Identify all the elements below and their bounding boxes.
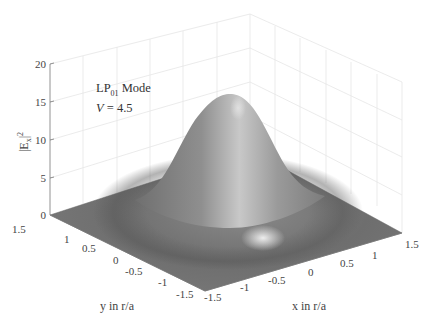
- svg-text:0: 0: [113, 254, 119, 266]
- svg-text:1.5: 1.5: [405, 238, 419, 250]
- svg-text:0.5: 0.5: [82, 242, 96, 254]
- surface-plot: 20 15 10 5 0 |Ex|2 1.5 1 0.5 0 -0.5 -1 -…: [0, 0, 435, 325]
- v-number: V = 4.5: [96, 101, 151, 116]
- svg-text:-1.5: -1.5: [204, 291, 222, 303]
- y-axis-label: y in r/a: [100, 299, 135, 313]
- z-axis: [50, 63, 54, 215]
- x-axis-label: x in r/a: [292, 299, 327, 313]
- surface-highlight: [241, 225, 285, 251]
- z-tick: 10: [35, 134, 47, 146]
- svg-text:1: 1: [372, 249, 378, 261]
- z-axis-label: |Ex|2: [16, 132, 33, 152]
- svg-text:|Ex|2: |Ex|2: [16, 132, 33, 152]
- svg-text:1: 1: [64, 233, 70, 245]
- z-tick: 0: [41, 209, 47, 221]
- svg-text:-0.5: -0.5: [268, 274, 286, 286]
- z-tick: 5: [41, 172, 47, 184]
- svg-text:-1: -1: [158, 276, 167, 288]
- svg-text:0.5: 0.5: [340, 257, 354, 269]
- mode-label: LP01 Mode: [96, 81, 151, 101]
- svg-text:-1: -1: [240, 281, 249, 293]
- surface-peak: [135, 94, 325, 228]
- mode-annotation: LP01 Mode V = 4.5: [96, 81, 151, 116]
- z-tick: 15: [35, 96, 47, 108]
- svg-text:0: 0: [308, 266, 314, 278]
- svg-text:1.5: 1.5: [12, 223, 26, 235]
- svg-text:-1.5: -1.5: [176, 288, 194, 300]
- z-tick-labels: 20 15 10 5 0: [35, 58, 47, 221]
- z-tick: 20: [35, 58, 47, 70]
- svg-text:-0.5: -0.5: [125, 265, 143, 277]
